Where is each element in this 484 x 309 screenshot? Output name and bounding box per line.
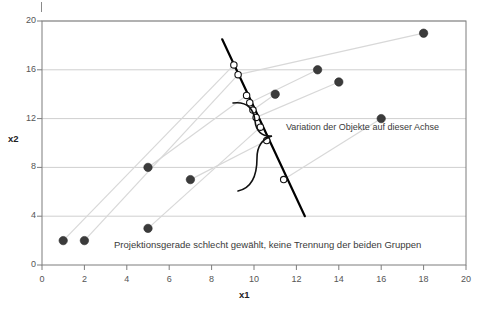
data-point [186, 175, 194, 183]
projected-point [280, 176, 286, 182]
data-point [419, 29, 427, 37]
projected-points-group [231, 62, 287, 183]
projection-ray-2 [148, 95, 247, 167]
chart-figure: 048121620 02468101214161820 x2 x1 Variat… [0, 0, 484, 309]
x-tick-label-16: 16 [366, 274, 396, 284]
y-tick-label-4: 4 [14, 210, 36, 220]
projected-point [231, 62, 237, 68]
y-tick-label-8: 8 [14, 161, 36, 171]
projection-ray-3 [148, 127, 260, 228]
projection-ray-9 [238, 33, 424, 74]
axes-frame [42, 21, 466, 265]
y-tick-label-16: 16 [14, 64, 36, 74]
data-point [335, 78, 343, 86]
x-tick-label-10: 10 [239, 274, 269, 284]
data-point [271, 90, 279, 98]
x-tick-label-20: 20 [451, 274, 481, 284]
projected-point [235, 71, 241, 77]
projected-point [243, 92, 249, 98]
x-tick-label-4: 4 [112, 274, 142, 284]
data-point [313, 66, 321, 74]
x-tick-label-6: 6 [154, 274, 184, 284]
data-point [80, 236, 88, 244]
data-points-group [59, 29, 428, 245]
x-tick-label-12: 12 [281, 274, 311, 284]
x-axis-title: x1 [239, 289, 250, 300]
chart-caption: Projektionsgerade schlecht gewählt, kein… [114, 239, 421, 250]
x-tick-label-2: 2 [69, 274, 99, 284]
x-tick-label-14: 14 [324, 274, 354, 284]
data-point [144, 224, 152, 232]
projection-ray-6 [250, 70, 318, 103]
axis-ticks-group [37, 21, 466, 270]
y-tick-label-12: 12 [14, 113, 36, 123]
projection-rays-group [63, 33, 423, 240]
y-axis-title: x2 [8, 133, 19, 144]
variation-annotation-label: Variation der Objekte auf dieser Achse [286, 122, 439, 132]
data-point [144, 163, 152, 171]
x-tick-label-0: 0 [27, 274, 57, 284]
plot-frame [42, 21, 466, 265]
x-tick-label-18: 18 [409, 274, 439, 284]
data-point [59, 236, 67, 244]
y-tick-label-0: 0 [14, 259, 36, 269]
projection-ray-0 [63, 65, 234, 241]
x-tick-label-8: 8 [197, 274, 227, 284]
scatter-plot-canvas [0, 0, 484, 309]
y-tick-label-20: 20 [14, 15, 36, 25]
